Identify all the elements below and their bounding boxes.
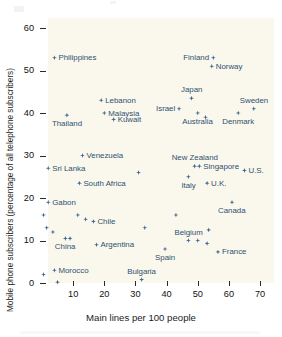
- point-label: U.K.: [211, 179, 226, 188]
- point-label: Sweden: [240, 96, 268, 105]
- x-tick-label: 60: [217, 290, 241, 299]
- y-axis-title: Mobile phone subscribers (percentage of …: [3, 12, 17, 312]
- x-tick-label: 70: [248, 290, 272, 299]
- point-label: Italy: [181, 181, 195, 190]
- point-label: Argentina: [101, 240, 135, 249]
- point-label: Singapore: [203, 162, 239, 171]
- x-tick-label: 10: [61, 290, 85, 299]
- point-label: Australia: [182, 117, 213, 126]
- point-label: Sri Lanka: [52, 164, 85, 173]
- y-tick-mark: [40, 156, 46, 157]
- point-label: Lebanon: [105, 96, 136, 105]
- point-label: Philippines: [58, 53, 96, 62]
- point-label: Thailand: [52, 119, 82, 128]
- point-label: Norway: [216, 62, 243, 71]
- y-tick-label: 20: [12, 194, 34, 203]
- point-label: Morocco: [58, 266, 88, 275]
- data-point: [41, 213, 46, 218]
- point-label: Gabon: [52, 198, 76, 207]
- y-tick-mark: [40, 113, 46, 114]
- point-label: China: [55, 242, 76, 251]
- point-label: Kuwait: [118, 115, 142, 124]
- data-point: [41, 272, 46, 277]
- x-tick-label: 50: [186, 290, 210, 299]
- y-tick-mark: [40, 198, 46, 199]
- x-tick-mark: [229, 281, 230, 286]
- x-tick-mark: [260, 281, 261, 286]
- y-tick-label: 60: [12, 24, 34, 33]
- point-label: France: [222, 247, 246, 256]
- x-tick-mark: [198, 281, 199, 286]
- point-label: Denmark: [222, 117, 254, 126]
- x-axis-title: Main lines per 100 people: [0, 312, 282, 323]
- y-tick-mark: [40, 71, 46, 72]
- y-tick-mark: [40, 283, 46, 284]
- point-label: South Africa: [83, 179, 125, 188]
- y-tick-label: 30: [12, 151, 34, 160]
- scan-artifact: [20, 331, 260, 334]
- x-tick-mark: [104, 281, 105, 286]
- x-tick-label: 20: [92, 290, 116, 299]
- x-tick-mark: [73, 281, 74, 286]
- point-label: U.S.: [248, 166, 263, 175]
- y-tick-mark: [40, 241, 46, 242]
- y-tick-label: 0: [12, 279, 34, 288]
- point-label: Chile: [97, 217, 115, 226]
- scatter-chart-figure: Mobile phone subscribers (percentage of …: [0, 0, 282, 337]
- y-tick-label: 50: [12, 66, 34, 75]
- x-tick-label: 30: [123, 290, 147, 299]
- scan-artifact: [110, 1, 116, 4]
- y-tick-label: 40: [12, 109, 34, 118]
- point-label: Bulgaria: [127, 267, 156, 276]
- point-label: Japan: [181, 85, 202, 94]
- scan-artifact: [14, 6, 24, 12]
- point-label: Belgium: [174, 228, 202, 237]
- y-tick-mark: [40, 28, 46, 29]
- x-tick-label: 40: [155, 290, 179, 299]
- x-tick-mark: [135, 281, 136, 286]
- point-label: Finland: [183, 53, 209, 62]
- point-label: Israel: [156, 104, 175, 113]
- y-tick-label: 10: [12, 236, 34, 245]
- point-label: Venezuela: [86, 151, 123, 160]
- point-label: Spain: [155, 253, 175, 262]
- point-label: Canada: [218, 206, 246, 215]
- x-tick-mark: [167, 281, 168, 286]
